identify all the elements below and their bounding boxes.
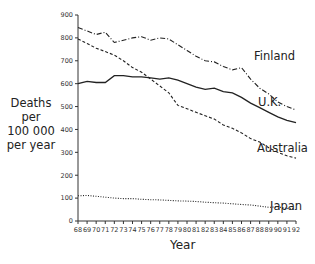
svg-text:77: 77: [156, 226, 164, 234]
svg-text:70: 70: [92, 226, 100, 234]
svg-text:91: 91: [283, 226, 291, 234]
svg-text:79: 79: [174, 226, 182, 234]
svg-text:700: 700: [61, 57, 73, 65]
svg-text:83: 83: [210, 226, 218, 234]
svg-text:400: 400: [61, 126, 73, 134]
label-australia: Australia: [257, 141, 308, 155]
series-japan: [78, 195, 296, 209]
svg-text:87: 87: [246, 226, 254, 234]
svg-text:68: 68: [74, 226, 82, 234]
svg-text:82: 82: [201, 226, 209, 234]
svg-text:100: 100: [61, 194, 73, 202]
svg-text:75: 75: [137, 226, 145, 234]
svg-text:200: 200: [61, 172, 73, 180]
label-finland: Finland: [254, 49, 295, 63]
svg-text:89: 89: [265, 226, 273, 234]
svg-text:85: 85: [228, 226, 236, 234]
y-axis-label: Deathsper100 000per year: [0, 96, 62, 152]
svg-text:72: 72: [110, 226, 118, 234]
svg-text:78: 78: [165, 226, 173, 234]
svg-text:69: 69: [83, 226, 91, 234]
svg-text:71: 71: [101, 226, 109, 234]
svg-text:800: 800: [61, 34, 73, 42]
svg-text:86: 86: [237, 226, 245, 234]
svg-text:0: 0: [69, 217, 73, 225]
svg-text:73: 73: [119, 226, 127, 234]
svg-text:81: 81: [192, 226, 200, 234]
svg-text:92: 92: [292, 226, 300, 234]
label-japan: Japan: [270, 199, 302, 213]
svg-text:300: 300: [61, 149, 73, 157]
svg-text:600: 600: [61, 80, 73, 88]
svg-text:76: 76: [147, 226, 155, 234]
svg-text:80: 80: [183, 226, 191, 234]
svg-text:74: 74: [128, 226, 136, 234]
label-uk: U.K.: [258, 95, 281, 109]
x-axis-label: Year: [170, 238, 195, 252]
svg-text:84: 84: [219, 226, 227, 234]
axes: [75, 15, 296, 224]
svg-text:88: 88: [256, 226, 264, 234]
svg-text:900: 900: [61, 11, 73, 19]
svg-text:500: 500: [61, 103, 73, 111]
svg-text:90: 90: [274, 226, 282, 234]
